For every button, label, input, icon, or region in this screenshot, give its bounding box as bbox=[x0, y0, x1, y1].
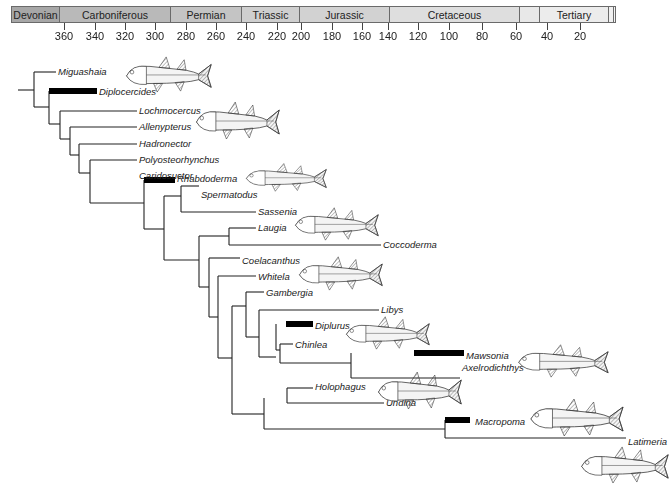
time-tick-label: 140 bbox=[379, 30, 397, 42]
time-tick-label: 160 bbox=[353, 30, 371, 42]
time-tick-label: 240 bbox=[237, 30, 255, 42]
time-tick-label: 260 bbox=[207, 30, 225, 42]
time-tick bbox=[362, 23, 363, 30]
time-tick bbox=[388, 23, 389, 30]
time-tick bbox=[64, 23, 65, 30]
time-tick-label: 320 bbox=[116, 30, 134, 42]
time-tick bbox=[332, 23, 333, 30]
fossil-range-bar bbox=[49, 88, 97, 94]
time-tick bbox=[482, 23, 483, 30]
time-tick-label: 80 bbox=[476, 30, 488, 42]
taxon-label: Mawsonia bbox=[466, 350, 509, 361]
taxon-label: Coelacanthus bbox=[242, 255, 300, 266]
time-tick bbox=[516, 23, 517, 30]
time-tick bbox=[277, 23, 278, 30]
taxon-label: Miguashaia bbox=[58, 66, 107, 77]
time-tick bbox=[186, 23, 187, 30]
time-tick bbox=[216, 23, 217, 30]
taxon-label: Coccoderma bbox=[383, 239, 437, 250]
coelacanth-fish-icon bbox=[515, 343, 610, 378]
coelacanth-fish-icon bbox=[123, 55, 213, 93]
time-tick bbox=[418, 23, 419, 30]
time-tick bbox=[547, 23, 548, 30]
coelacanth-fish-icon bbox=[296, 255, 384, 291]
time-tick bbox=[125, 23, 126, 30]
fossil-range-bar bbox=[445, 417, 470, 423]
time-tick-label: 180 bbox=[323, 30, 341, 42]
coelacanth-fish-icon bbox=[375, 370, 463, 410]
time-tick-label: 340 bbox=[86, 30, 104, 42]
taxon-label: Libys bbox=[381, 304, 403, 315]
time-tick bbox=[580, 23, 581, 30]
taxon-label: Hadronector bbox=[139, 138, 191, 149]
time-tick bbox=[301, 23, 302, 30]
taxon-label: Macropoma bbox=[475, 416, 525, 427]
time-tick-label: 60 bbox=[510, 30, 522, 42]
time-tick-label: 100 bbox=[440, 30, 458, 42]
time-tick-label: 120 bbox=[409, 30, 427, 42]
time-tick-label: 40 bbox=[541, 30, 553, 42]
coelacanth-fish-icon bbox=[578, 445, 670, 484]
time-tick-label: 200 bbox=[292, 30, 310, 42]
time-tick-label: 360 bbox=[55, 30, 73, 42]
taxon-label: Polyosteorhynchus bbox=[139, 154, 219, 165]
taxon-label: Holophagus bbox=[315, 381, 366, 392]
fossil-range-bar bbox=[286, 321, 313, 327]
coelacanth-fish-icon bbox=[193, 100, 281, 140]
coelacanth-fish-icon bbox=[243, 162, 328, 192]
taxon-label: Chinlea bbox=[295, 339, 327, 350]
coelacanth-fish-icon bbox=[292, 206, 380, 241]
coelacanth-fish-icon bbox=[343, 315, 431, 350]
taxon-label: Laugia bbox=[258, 222, 287, 233]
taxon-label: Whitela bbox=[258, 271, 290, 282]
taxon-label: Rhabdoderma bbox=[177, 173, 237, 184]
fossil-range-bar bbox=[414, 350, 464, 356]
time-tick-label: 220 bbox=[268, 30, 286, 42]
taxon-label: Allenypterus bbox=[139, 121, 191, 132]
taxon-label: Lochmocercus bbox=[139, 105, 201, 116]
time-tick-label: 280 bbox=[177, 30, 195, 42]
coelacanth-fish-icon bbox=[527, 397, 625, 437]
time-tick bbox=[246, 23, 247, 30]
time-tick bbox=[155, 23, 156, 30]
time-tick bbox=[95, 23, 96, 30]
time-tick bbox=[449, 23, 450, 30]
time-tick-label: 20 bbox=[574, 30, 586, 42]
time-tick-label: 300 bbox=[146, 30, 164, 42]
